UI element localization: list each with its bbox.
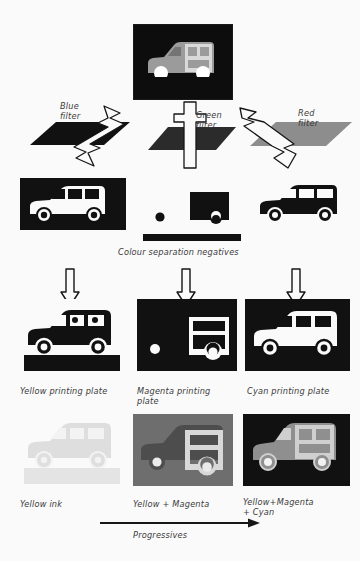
- yellow-printing-plate: [18, 299, 126, 371]
- diagram-canvas: Blue filter Green filter Red filter: [0, 0, 360, 561]
- proof-car-yellow-magenta: [133, 414, 233, 486]
- cyan-printing-plate: [245, 299, 350, 371]
- red-filter-label: Red filter: [298, 108, 318, 129]
- cyan-plate-label: Cyan printing plate: [247, 386, 329, 396]
- negative-car-black: [254, 178, 352, 230]
- red-filter-illustration: [230, 100, 358, 172]
- progressives-axis: [100, 518, 260, 528]
- progressives-axis-label: Progressives: [133, 530, 187, 540]
- green-separation-negative: [143, 178, 241, 230]
- magenta-printing-plate: [137, 299, 237, 371]
- yellow-magenta-proof: [133, 414, 233, 486]
- negative-baseline-bar: [143, 234, 241, 241]
- plate-car-partial-white: [137, 299, 237, 371]
- yellow-magenta-cyan-label: Yellow+Magenta + Cyan: [243, 497, 314, 518]
- original-photo: [134, 25, 232, 99]
- magenta-plate-label: Magenta printing plate: [137, 386, 210, 407]
- green-filter-illustration: [140, 100, 240, 172]
- blue-filter-label: Blue filter: [60, 101, 80, 122]
- red-filter-group: [230, 100, 358, 172]
- red-separation-negative: [254, 178, 352, 230]
- plate-car-white: [245, 299, 350, 371]
- plate-car-black: [18, 299, 126, 371]
- negative-car-white: [20, 178, 126, 230]
- green-filter-label: Green filter: [196, 110, 222, 131]
- yellow-plate-label: Yellow printing plate: [20, 386, 107, 396]
- right-arrow-icon: [100, 518, 260, 530]
- yellow-ink-label: Yellow ink: [20, 499, 62, 509]
- yellow-magenta-cyan-proof: [243, 414, 350, 486]
- negatives-caption: Colour separation negatives: [118, 247, 239, 257]
- green-filter-group: [140, 100, 240, 172]
- negative-car-partial: [143, 178, 241, 230]
- yellow-ink-proof: [18, 414, 126, 486]
- yellow-magenta-label: Yellow + Magenta: [133, 499, 209, 509]
- proof-car-yellow: [18, 414, 126, 486]
- original-car-illustration: [134, 25, 232, 99]
- blue-separation-negative: [20, 178, 126, 230]
- proof-car-full-colour: [243, 414, 350, 486]
